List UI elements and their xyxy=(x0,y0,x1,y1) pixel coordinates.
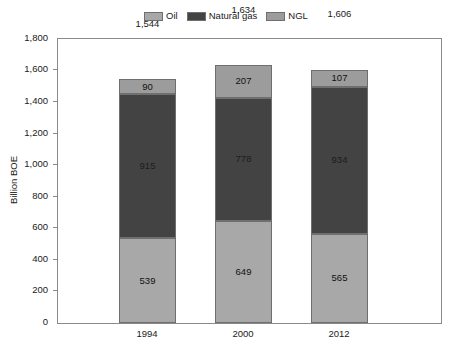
bar-segment-label-2000-oil: 649 xyxy=(236,267,252,277)
bar-segment-label-2012-ngl: 107 xyxy=(332,73,348,83)
bar-segment-label-2000-natural-gas: 778 xyxy=(236,154,252,164)
stacked-bar-chart: Oil Natural gas NGL Billion BOE 1,800 1,… xyxy=(0,0,452,350)
y-tick-label-1000: 1,000 xyxy=(24,158,48,169)
bar-segment-1994-natural-gas[interactable]: 915 xyxy=(119,94,176,238)
bar-segment-2000-ngl[interactable]: 207 xyxy=(215,65,272,98)
bar-total-label-2000: 1,634 xyxy=(213,4,274,15)
bar-segment-1994-ngl[interactable]: 90 xyxy=(119,79,176,93)
bar-segment-label-1994-oil: 539 xyxy=(140,276,156,286)
y-tick-label-1400: 1,400 xyxy=(24,95,48,106)
bar-group-2012[interactable]: 565 934 107 xyxy=(311,70,368,323)
legend-label-ngl: NGL xyxy=(288,11,308,21)
bar-segment-1994-oil[interactable]: 539 xyxy=(119,238,176,323)
y-tick-label-400: 400 xyxy=(32,253,48,264)
plot-area: 539 915 90 1,544 649 778 207 xyxy=(57,38,442,324)
y-axis-title: Billion BOE xyxy=(6,38,20,322)
y-tick-label-800: 800 xyxy=(32,190,48,201)
legend-swatch-natural-gas xyxy=(187,12,206,21)
y-tick-label-200: 200 xyxy=(32,284,48,295)
bar-group-1994[interactable]: 539 915 90 xyxy=(119,79,176,323)
y-tick-label-1600: 1,600 xyxy=(24,63,48,74)
y-tick-label-0: 0 xyxy=(43,316,48,327)
y-tick-label-600: 600 xyxy=(32,221,48,232)
bar-total-label-2012: 1,606 xyxy=(309,8,370,19)
bar-segment-label-2012-natural-gas: 934 xyxy=(332,155,348,165)
x-tick-label-2000: 2000 xyxy=(213,328,273,339)
bar-segment-label-1994-natural-gas: 915 xyxy=(140,161,156,171)
x-tick-label-2012: 2012 xyxy=(309,328,369,339)
bar-segment-2012-ngl[interactable]: 107 xyxy=(311,70,368,87)
bar-segment-2000-oil[interactable]: 649 xyxy=(215,221,272,323)
bar-total-label-1994: 1,544 xyxy=(117,18,178,29)
bar-segment-2000-natural-gas[interactable]: 778 xyxy=(215,98,272,221)
y-tick-label-1800: 1,800 xyxy=(24,32,48,43)
bar-segment-label-2012-oil: 565 xyxy=(332,273,348,283)
x-tick-label-1994: 1994 xyxy=(117,328,177,339)
bar-segment-label-2000-ngl: 207 xyxy=(236,76,252,86)
bar-segment-2012-natural-gas[interactable]: 934 xyxy=(311,87,368,234)
bar-group-2000[interactable]: 649 778 207 xyxy=(215,65,272,323)
y-tick-label-1200: 1,200 xyxy=(24,127,48,138)
bar-segment-2012-oil[interactable]: 565 xyxy=(311,234,368,323)
bar-segment-label-1994-ngl: 90 xyxy=(142,82,153,92)
